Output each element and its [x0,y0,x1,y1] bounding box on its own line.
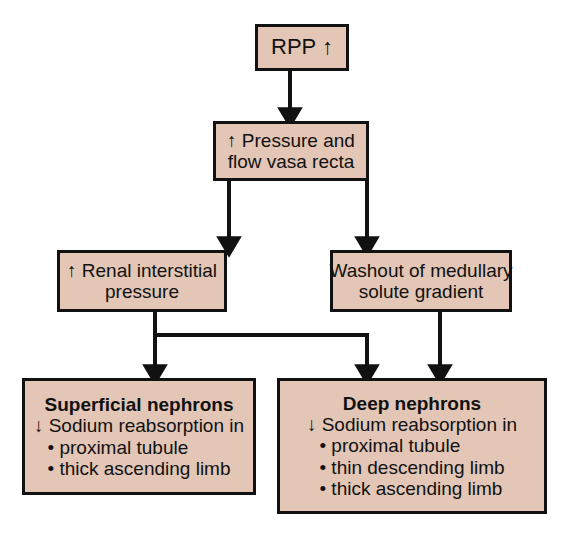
node-deep-nephrons-subheading: ↓ Sodium reabsorption in [307,414,517,435]
node-vasa-recta-line-2: flow vasa recta [228,151,355,172]
node-renal-interstitial-pressure: ↑ Renal interstitial pressure [57,250,227,312]
node-deep-nephrons-bullet-1: • proximal tubule [319,435,504,456]
node-deep-nephrons-heading: Deep nephrons [343,393,481,414]
node-rpp-line-1: RPP ↑ [271,35,333,60]
node-washout-medullary-gradient-line-1: Washout of medullary [329,260,512,281]
node-superficial-nephrons-bullet-1: • proximal tubule [47,437,230,458]
node-superficial-nephrons-bullets: • proximal tubule • thick ascending limb [47,437,230,480]
node-superficial-nephrons-heading: Superficial nephrons [45,394,234,415]
node-washout-medullary-gradient-line-2: solute gradient [359,281,484,302]
node-superficial-nephrons: Superficial nephrons ↓ Sodium reabsorpti… [22,378,256,495]
flowchart-diagram: RPP ↑ ↑ Pressure and flow vasa recta ↑ R… [0,0,584,534]
node-vasa-recta: ↑ Pressure and flow vasa recta [213,121,369,181]
node-washout-medullary-gradient: Washout of medullary solute gradient [330,250,512,312]
node-superficial-nephrons-subheading: ↓ Sodium reabsorption in [34,415,244,436]
node-renal-interstitial-pressure-line-2: pressure [105,281,179,302]
node-deep-nephrons-bullets: • proximal tubule • thin descending limb… [319,435,504,499]
edge-interstitial-to-deep [155,335,367,369]
node-renal-interstitial-pressure-line-1: ↑ Renal interstitial [67,260,217,281]
node-deep-nephrons-bullet-3: • thick ascending limb [319,478,504,499]
node-deep-nephrons-bullet-2: • thin descending limb [319,457,504,478]
node-vasa-recta-line-1: ↑ Pressure and [227,130,355,151]
node-superficial-nephrons-bullet-2: • thick ascending limb [47,458,230,479]
node-rpp: RPP ↑ [255,24,349,71]
node-deep-nephrons: Deep nephrons ↓ Sodium reabsorption in •… [277,378,547,514]
